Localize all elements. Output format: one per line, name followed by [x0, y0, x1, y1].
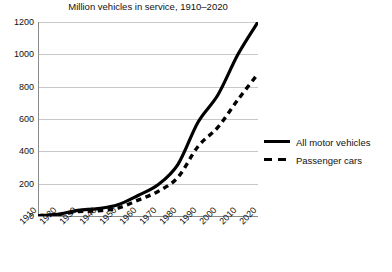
legend-label-passenger-cars: Passenger cars	[296, 155, 362, 166]
x-tick-label: 1930	[58, 206, 79, 227]
x-tick-label: 2020	[238, 206, 259, 227]
x-tick-label: 1940	[78, 206, 99, 227]
x-tick-label: 1910	[18, 206, 39, 227]
x-tick-label: 2000	[198, 206, 219, 227]
legend-label-all-motor-vehicles: All motor vehicles	[296, 137, 370, 148]
x-tick-label: 1990	[178, 206, 199, 227]
legend-swatch-solid-icon	[264, 136, 290, 148]
legend-item-all-motor-vehicles: All motor vehicles	[264, 133, 390, 151]
x-tick-label: 1950	[98, 206, 119, 227]
x-tick-label: 2010	[218, 206, 239, 227]
chart-legend: All motor vehicles Passenger cars	[264, 133, 390, 169]
x-tick-label: 1960	[118, 206, 139, 227]
x-tick-label: 1970	[138, 206, 159, 227]
legend-item-passenger-cars: Passenger cars	[264, 151, 390, 169]
chart-figure: Million vehicles in service, 1910–2020 0…	[0, 0, 392, 272]
x-tick-label: 1920	[38, 206, 59, 227]
x-tick-label: 1980	[158, 206, 179, 227]
legend-swatch-dashed-icon	[264, 154, 290, 166]
